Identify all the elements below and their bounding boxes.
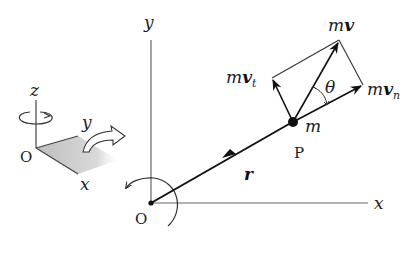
main-axes: y x O bbox=[135, 12, 384, 228]
momentum-diagram: z y x O y x O r θ m P mv mvn mvt bbox=[0, 0, 412, 256]
origin-label: O bbox=[135, 210, 147, 228]
particle-dot bbox=[288, 117, 298, 127]
inset-x-label: x bbox=[80, 174, 90, 194]
inset-y-label: y bbox=[81, 112, 92, 132]
momentum-vector-mvt bbox=[273, 80, 293, 122]
mass-label: m bbox=[305, 116, 321, 136]
inset-origin-label: O bbox=[20, 148, 32, 166]
y-axis-label: y bbox=[143, 12, 154, 32]
x-axis-label: x bbox=[374, 193, 384, 213]
mvt-label: mvt bbox=[226, 67, 257, 90]
mv-label: mv bbox=[328, 15, 355, 35]
inset-axes: z y x O bbox=[19, 80, 125, 194]
point-label: P bbox=[294, 144, 304, 162]
position-vector-r bbox=[151, 124, 289, 203]
inset-z-label: z bbox=[29, 80, 40, 100]
position-vector-label: r bbox=[244, 164, 254, 184]
mvn-label: mvn bbox=[367, 79, 400, 102]
theta-label: θ bbox=[325, 77, 335, 97]
